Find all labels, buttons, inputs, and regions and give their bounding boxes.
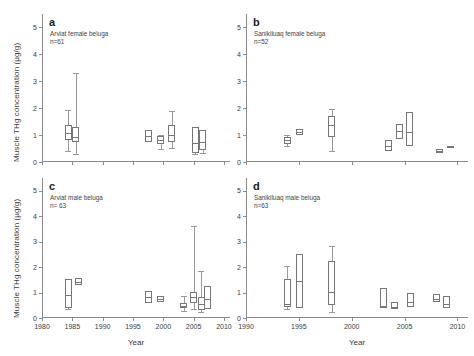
- y-tick-label-b-5: 5: [223, 24, 241, 31]
- y-tick-label-a-1: 1: [19, 132, 37, 139]
- box-iqr: [192, 127, 199, 153]
- x-tick-a-1980: [42, 162, 43, 165]
- x-tick-a-1990: [103, 162, 104, 165]
- box-median: [391, 307, 398, 308]
- box-median: [65, 295, 72, 296]
- x-tick-c-1995: [133, 318, 134, 321]
- whisker-cap-upper: [329, 246, 335, 247]
- y-tick-label-b-0: 0: [223, 159, 241, 166]
- whisker-cap-lower: [73, 154, 79, 155]
- y-tick-b-3: [243, 81, 246, 82]
- y-tick-c-1: [39, 293, 42, 294]
- box-median: [284, 140, 291, 141]
- whisker-upper: [68, 110, 69, 125]
- y-tick-c-4: [39, 216, 42, 217]
- x-tick-a-1995: [133, 162, 134, 165]
- panel-letter-a: a: [49, 16, 55, 28]
- box-iqr: [328, 261, 335, 305]
- y-tick-d-3: [243, 242, 246, 243]
- whisker-cap-upper: [191, 226, 197, 227]
- whisker-upper: [184, 296, 185, 304]
- box-median: [407, 302, 414, 303]
- whisker-cap-lower: [181, 311, 187, 312]
- whisker-cap-upper: [65, 110, 71, 111]
- whisker-cap-lower: [329, 312, 335, 313]
- box-iqr: [391, 302, 398, 309]
- panel-letter-b: b: [253, 16, 260, 28]
- x-tick-label-c-2000: 2000: [148, 323, 178, 330]
- y-tick-label-d-0: 0: [223, 315, 241, 322]
- y-tick-b-5: [243, 27, 246, 28]
- box-median: [75, 282, 82, 283]
- whisker-cap-lower: [192, 154, 198, 155]
- y-tick-a-2: [39, 108, 42, 109]
- y-tick-d-1: [243, 293, 246, 294]
- whisker-cap-upper: [169, 111, 175, 112]
- y-tick-label-d-5: 5: [223, 187, 241, 194]
- x-tick-c-1980: [42, 318, 43, 321]
- x-tick-label-c-1985: 1985: [57, 323, 87, 330]
- x-tick-label-c-1995: 1995: [118, 323, 148, 330]
- whisker-cap-upper: [181, 296, 187, 297]
- box-median: [145, 136, 152, 137]
- x-tick-label-d-2010: 2010: [442, 323, 472, 330]
- box-iqr: [65, 279, 72, 308]
- x-tick-label-c-1980: 1980: [27, 323, 57, 330]
- whisker-cap-upper: [198, 271, 204, 272]
- box-median: [168, 135, 175, 136]
- box-median: [433, 299, 440, 300]
- whisker-upper: [76, 73, 77, 127]
- y-tick-label-b-2: 2: [223, 105, 241, 112]
- panel-d: 01234519901995200020052010dSanikiluaq ma…: [246, 178, 468, 318]
- box-median: [72, 137, 79, 138]
- y-tick-label-c-2: 2: [19, 264, 37, 271]
- box-median: [385, 146, 392, 147]
- x-tick-d-1990: [246, 318, 247, 321]
- y-tick-label-c-3: 3: [19, 238, 37, 245]
- panel-subtitle-d: Sanikiluaq male beluga n=63: [254, 194, 320, 210]
- whisker-lower: [76, 142, 77, 154]
- panel-letter-d: d: [253, 180, 260, 192]
- y-tick-b-1: [243, 135, 246, 136]
- box-median: [296, 132, 303, 133]
- x-tick-c-2005: [194, 318, 195, 321]
- box-iqr: [72, 127, 79, 142]
- x-tick-b-1990: [246, 162, 247, 165]
- y-tick-label-a-0: 0: [19, 159, 37, 166]
- panel-letter-c: c: [49, 180, 55, 192]
- box-median: [199, 142, 206, 143]
- y-tick-a-4: [39, 54, 42, 55]
- y-tick-label-a-3: 3: [19, 78, 37, 85]
- whisker-cap-lower: [198, 312, 204, 313]
- y-tick-c-5: [39, 191, 42, 192]
- box-iqr: [380, 288, 387, 308]
- x-tick-b-2000: [352, 162, 353, 165]
- whisker-cap-upper: [284, 135, 290, 136]
- whisker-upper: [201, 271, 202, 297]
- y-axis-title-top: Muscle THg concentration (µg/g): [12, 43, 21, 162]
- whisker-cap-lower: [191, 309, 197, 310]
- panel-subtitle-c: Arviat male beluga n= 63: [50, 194, 103, 210]
- x-tick-label-d-2005: 2005: [390, 323, 420, 330]
- panel-c: 0123451980198519901995200020052010cArvia…: [42, 178, 230, 318]
- y-tick-label-a-5: 5: [19, 24, 37, 31]
- box-iqr: [328, 116, 335, 138]
- box-median: [406, 132, 413, 133]
- x-axis-title-left: Year: [42, 338, 230, 347]
- whisker-cap-lower: [158, 149, 164, 150]
- panel-a: 012345aArviat female beluga n=61: [42, 14, 230, 162]
- y-tick-label-b-3: 3: [223, 78, 241, 85]
- box-iqr: [204, 286, 211, 309]
- box-median: [157, 299, 164, 300]
- x-tick-d-2000: [352, 318, 353, 321]
- whisker-cap-upper: [284, 266, 290, 267]
- box-iqr: [284, 279, 291, 306]
- y-tick-a-1: [39, 135, 42, 136]
- panel-b: 012345bSanikiluaq female beluga n=52: [246, 14, 468, 162]
- x-tick-c-2000: [163, 318, 164, 321]
- box-median: [157, 140, 164, 141]
- y-tick-label-b-4: 4: [223, 51, 241, 58]
- x-tick-c-1985: [72, 318, 73, 321]
- y-tick-d-2: [243, 267, 246, 268]
- x-tick-b-1995: [299, 162, 300, 165]
